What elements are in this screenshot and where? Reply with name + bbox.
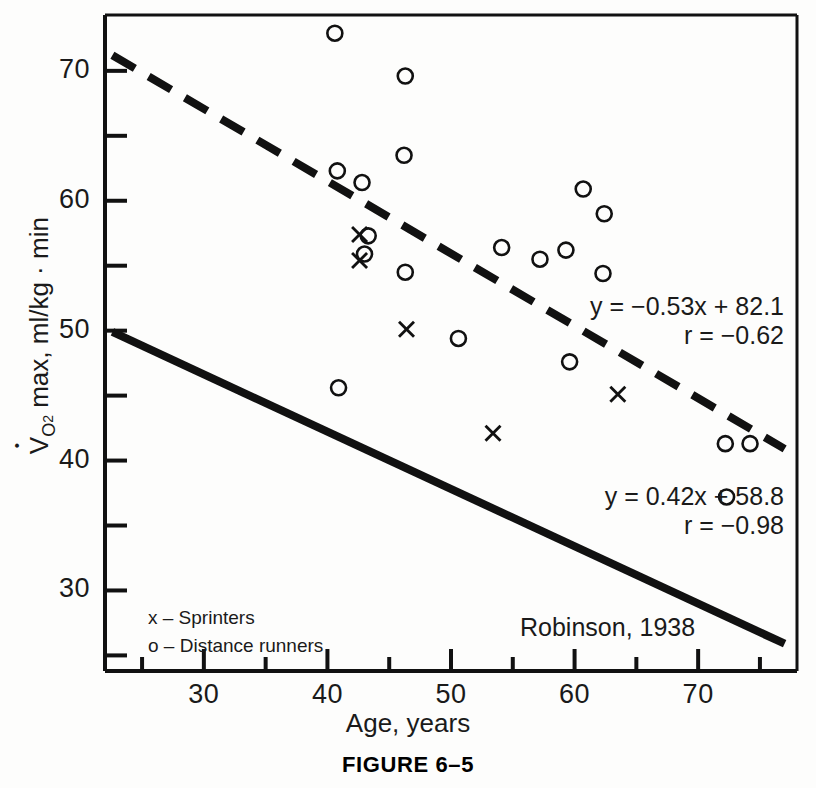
solid-fit-equation: y = 0.42x + 58.8	[605, 482, 784, 510]
data-point-distance-runner	[494, 240, 509, 255]
figure-6-5: 3040506070 3040506070 VO2 max, ml/kg · m…	[0, 0, 816, 788]
dashed-fit-equation: y = −0.53x + 82.1	[590, 292, 784, 320]
y-tick-label: 70	[20, 54, 90, 85]
y-axis-title: VO2 max, ml/kg · min	[24, 126, 59, 546]
source-citation: Robinson, 1938	[520, 613, 695, 642]
data-point-distance-runner	[327, 26, 342, 41]
x-tick-label: 60	[535, 679, 615, 710]
distance-runners-fit	[112, 55, 784, 449]
data-point-distance-runner	[355, 175, 370, 190]
data-point-distance-runner	[576, 182, 591, 197]
figure-caption: FIGURE 6–5	[0, 752, 816, 778]
x-tick-label: 70	[658, 679, 738, 710]
data-point-distance-runner	[597, 206, 612, 221]
data-point-distance-runner	[451, 331, 466, 346]
x-tick-label: 50	[411, 679, 491, 710]
annotation-solid-fit: y = 0.42x + 58.8 r = −0.98	[556, 482, 784, 540]
data-point-markers	[327, 26, 757, 505]
x-tick-label: 40	[287, 679, 367, 710]
data-point-distance-runner	[595, 266, 610, 281]
o2-subscript-number: 2	[40, 415, 56, 423]
chart-plot-area	[0, 0, 816, 788]
data-point-distance-runner	[532, 252, 547, 267]
y-tick-label: 30	[20, 573, 90, 604]
y-axis-title-rest: max, ml/kg · min	[24, 217, 54, 415]
data-point-sprinter	[610, 387, 625, 402]
data-point-distance-runner	[398, 69, 413, 84]
data-point-distance-runner	[398, 265, 413, 280]
data-point-sprinter	[486, 426, 501, 441]
data-point-distance-runner	[558, 243, 573, 258]
legend-item-sprinters: x – Sprinters	[148, 604, 323, 632]
x-axis-title: Age, years	[0, 708, 816, 739]
data-point-distance-runner	[743, 436, 758, 451]
data-point-sprinter	[399, 322, 414, 337]
o2-subscript-letter: O	[39, 423, 59, 437]
x-tick-label: 30	[164, 679, 244, 710]
data-point-distance-runner	[330, 163, 345, 178]
annotation-dashed-fit: y = −0.53x + 82.1 r = −0.62	[556, 292, 784, 350]
data-point-distance-runner	[397, 148, 412, 163]
y-axis-ticks	[105, 71, 127, 656]
chart-legend: x – Sprinters o – Distance runners	[148, 604, 323, 659]
data-point-distance-runner	[562, 354, 577, 369]
dashed-fit-correlation: r = −0.62	[556, 321, 784, 350]
data-point-distance-runner	[361, 228, 376, 243]
data-point-distance-runner	[331, 380, 346, 395]
data-point-distance-runner	[718, 436, 733, 451]
solid-fit-correlation: r = −0.98	[556, 511, 784, 540]
legend-item-distance-runners: o – Distance runners	[148, 632, 323, 660]
v-dot-symbol: V	[24, 437, 55, 454]
